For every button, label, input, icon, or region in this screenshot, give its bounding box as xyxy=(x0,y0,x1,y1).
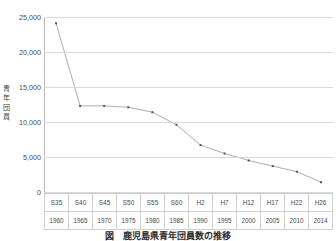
x-axis-year-label: 1975 xyxy=(117,212,141,230)
y-axis-tick-label: 5,000 xyxy=(2,153,44,162)
x-axis-year-row: 1960196519701975198019851990199520002005… xyxy=(45,212,333,230)
x-axis-era-label: S50 xyxy=(117,194,141,212)
x-axis-year-label: 1965 xyxy=(69,212,93,230)
plot-area xyxy=(44,17,333,192)
x-axis-era-row: S35S40S45S50S55S60H2H7H12H17H22H26 xyxy=(45,194,333,212)
x-axis-era-label: S55 xyxy=(141,194,165,212)
gridline xyxy=(44,52,333,53)
x-axis-era-label: H22 xyxy=(285,194,309,212)
x-axis-era-label: S40 xyxy=(69,194,93,212)
x-axis-era-label: H26 xyxy=(309,194,333,212)
x-axis-year-label: 1990 xyxy=(189,212,213,230)
y-axis-tick-label: 20,000 xyxy=(2,48,44,57)
gridline xyxy=(44,17,333,18)
x-axis-year-label: 1970 xyxy=(93,212,117,230)
x-axis-era-label: S60 xyxy=(165,194,189,212)
y-axis-tick-label: 15,000 xyxy=(2,83,44,92)
data-point-marker xyxy=(248,160,250,162)
data-point-marker xyxy=(272,165,274,167)
data-point-marker xyxy=(296,171,298,173)
figure-youth-group-members: 青 年 団 員 25,00020,00015,00010,0005,0000 S… xyxy=(0,0,336,241)
x-axis-year-label: 2010 xyxy=(285,212,309,230)
gridline xyxy=(44,87,333,88)
data-point-marker xyxy=(200,144,202,146)
data-point-marker xyxy=(224,153,226,155)
y-axis-tick-label: 10,000 xyxy=(2,118,44,127)
x-axis-year-label: 2000 xyxy=(237,212,261,230)
data-point-marker xyxy=(127,106,129,108)
x-axis-year-label: 1995 xyxy=(213,212,237,230)
series-polyline xyxy=(56,23,321,182)
x-axis-era-label: H12 xyxy=(237,194,261,212)
x-axis-era-label: H2 xyxy=(189,194,213,212)
x-axis-year-label: 2014 xyxy=(309,212,333,230)
data-point-marker xyxy=(103,105,105,107)
data-series-line xyxy=(44,17,333,192)
x-axis-era-label: H17 xyxy=(261,194,285,212)
y-axis-tick-labels: 25,00020,00015,00010,0005,0000 xyxy=(0,0,44,241)
x-axis-era-label: H7 xyxy=(213,194,237,212)
x-axis-year-label: 1985 xyxy=(165,212,189,230)
y-axis-tick-label: 25,000 xyxy=(2,13,44,22)
data-point-marker xyxy=(151,111,153,113)
x-axis-year-label: 2005 xyxy=(261,212,285,230)
series-markers xyxy=(55,22,322,183)
x-axis-era-label: S35 xyxy=(45,194,69,212)
y-axis-tick-label: 0 xyxy=(2,188,44,197)
x-axis-year-label: 1980 xyxy=(141,212,165,230)
data-point-marker xyxy=(79,105,81,107)
figure-caption: 図 鹿児島県青年団員数の推移 xyxy=(0,231,336,241)
gridline xyxy=(44,157,333,158)
data-point-marker xyxy=(55,22,57,24)
x-axis-year-label: 1960 xyxy=(45,212,69,230)
x-axis-label-table: S35S40S45S50S55S60H2H7H12H17H22H26 19601… xyxy=(44,193,333,230)
data-point-marker xyxy=(175,124,177,126)
data-point-marker xyxy=(320,181,322,183)
gridline xyxy=(44,122,333,123)
x-axis-era-label: S45 xyxy=(93,194,117,212)
